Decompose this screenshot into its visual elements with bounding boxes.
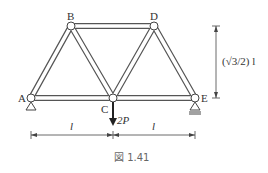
load-label: 2P xyxy=(117,114,130,126)
height-label: (√3/2) l xyxy=(222,55,255,68)
span-right-label: l xyxy=(152,120,155,132)
truss-diagram: B D A C E 2P l l (√3/2) l 図 1.41 xyxy=(0,0,268,173)
roller-support-e xyxy=(189,102,201,114)
joint-e xyxy=(191,94,199,102)
label-e: E xyxy=(201,92,208,104)
joint-b xyxy=(67,22,75,30)
label-a: A xyxy=(18,92,26,104)
label-c: C xyxy=(101,103,108,115)
joint-d xyxy=(150,22,158,30)
figure-caption: 図 1.41 xyxy=(114,152,149,163)
label-d: D xyxy=(150,10,158,22)
span-dimension xyxy=(31,131,195,139)
joint-c xyxy=(109,94,117,102)
joint-a xyxy=(27,94,35,102)
label-b: B xyxy=(67,10,74,22)
pin-support-a xyxy=(26,102,36,110)
load-arrow xyxy=(109,102,117,126)
truss-members xyxy=(31,26,195,98)
height-dimension xyxy=(212,26,220,98)
span-left-label: l xyxy=(70,120,73,132)
